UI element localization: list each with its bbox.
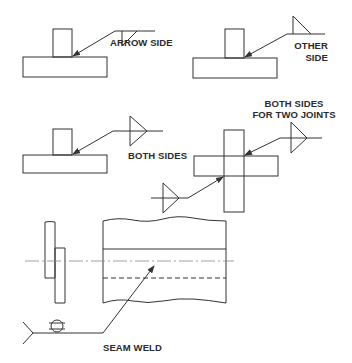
break-line — [45, 222, 55, 223]
tee-base-plate — [23, 57, 107, 77]
label-two-joints-line1: BOTH SIDES — [244, 98, 344, 109]
label-arrow-side: ARROW SIDE — [110, 37, 173, 48]
tee-stem-plate — [225, 29, 244, 58]
label-two-joints-line2: FOR TWO JOINTS — [244, 109, 344, 120]
label-other-side-line1: OTHER — [284, 40, 328, 51]
tee-stem-plate — [53, 129, 72, 155]
arrow-leader — [73, 131, 113, 154]
tee-stem-plate — [53, 29, 72, 57]
top-break-line — [103, 217, 226, 222]
seam-weld-circle — [51, 320, 63, 332]
label-seam-weld: SEAM WELD — [103, 342, 162, 353]
arrow-leader — [103, 266, 154, 333]
side-view-bottom-plate — [55, 222, 65, 303]
both-sides-panel — [23, 116, 163, 173]
arrow-leader — [73, 31, 115, 56]
vertical-plate — [224, 130, 244, 212]
arrow-leader — [245, 34, 287, 57]
fillet-symbol-above — [293, 16, 311, 34]
tail-symbol — [23, 322, 33, 344]
tee-base-plate — [193, 58, 277, 78]
horizontal-plate — [194, 156, 278, 176]
seam-weld-panel — [23, 217, 234, 344]
tee-base-plate — [23, 155, 107, 173]
side-view-top-plate — [45, 222, 55, 278]
label-both-sides: BOTH SIDES — [128, 150, 187, 161]
bottom-break-line — [103, 299, 226, 303]
upper-arrow-leader — [245, 138, 280, 155]
two-joints-panel — [151, 122, 322, 213]
lower-arrow-leader — [188, 177, 223, 198]
label-other-side-line2: SIDE — [284, 52, 328, 63]
